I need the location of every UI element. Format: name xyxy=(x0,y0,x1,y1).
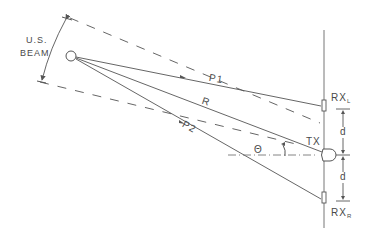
beam-label-line1: U.S. xyxy=(26,36,48,45)
spacing-label-lower: d xyxy=(340,172,347,182)
p1-arrow-icon xyxy=(180,75,186,78)
rx-right-sub: R xyxy=(347,213,351,219)
angle-arc xyxy=(283,145,285,156)
beam-lower-edge xyxy=(40,82,300,145)
path-p1 xyxy=(76,57,321,106)
source-circle-icon xyxy=(66,51,76,61)
path-p2 xyxy=(76,59,321,199)
beam-label-line2: BEAM xyxy=(20,49,50,58)
propagation-paths xyxy=(76,57,322,199)
rx-right-main: RX xyxy=(331,207,347,218)
rx-right-label: RXR xyxy=(331,208,351,219)
tx-label: TX xyxy=(306,137,321,147)
beam-edges xyxy=(40,18,320,145)
rx-left-main: RX xyxy=(331,92,347,103)
angle-label: Θ xyxy=(254,145,263,155)
rx-right-icon xyxy=(322,192,326,203)
rx-left-icon xyxy=(322,100,326,111)
rx-left-sub: L xyxy=(347,98,350,104)
spacing-label-upper: d xyxy=(340,127,347,137)
spacing-dimension xyxy=(336,109,350,201)
tx-transducer-icon xyxy=(322,149,337,161)
path-r xyxy=(76,58,322,152)
rx-left-label: RXL xyxy=(331,93,350,104)
